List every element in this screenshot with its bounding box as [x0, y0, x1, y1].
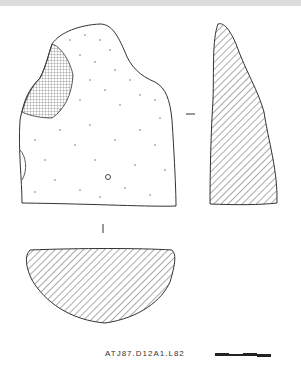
specimen-label: ATJ87.D12A1.L82 [105, 349, 185, 358]
cross-section [26, 249, 174, 324]
artifact-drawing [0, 0, 301, 366]
scale-bar [215, 352, 273, 358]
side-section [210, 24, 277, 205]
front-view [19, 24, 176, 206]
